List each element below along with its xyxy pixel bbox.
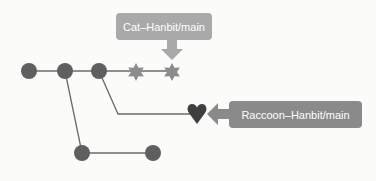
raccoon-branch-label: Raccoon–Hanbit/main bbox=[229, 101, 362, 128]
branch-edge-heart bbox=[99, 71, 196, 114]
branch-edge-bottom bbox=[65, 71, 82, 153]
commit-node-circle bbox=[91, 63, 107, 79]
commit-node-circle bbox=[145, 145, 161, 161]
commit-node-circle bbox=[57, 63, 73, 79]
cat-arrow-down-icon bbox=[161, 40, 183, 60]
cat-branch-label: Cat–Hanbit/main bbox=[116, 13, 212, 40]
commit-node-circle bbox=[21, 63, 37, 79]
raccoon-branch-label-text: Raccoon–Hanbit/main bbox=[241, 109, 349, 121]
edges bbox=[29, 71, 196, 153]
git-branch-diagram: Cat–Hanbit/main Raccoon–Hanbit/main bbox=[0, 0, 376, 181]
commit-node-circle bbox=[74, 145, 90, 161]
star-commit-icon bbox=[164, 63, 180, 81]
cat-branch-label-text: Cat–Hanbit/main bbox=[123, 21, 205, 33]
star-commit-icon bbox=[128, 63, 144, 81]
raccoon-arrow-left-icon bbox=[207, 103, 229, 125]
heart-commit-icon bbox=[188, 104, 207, 124]
